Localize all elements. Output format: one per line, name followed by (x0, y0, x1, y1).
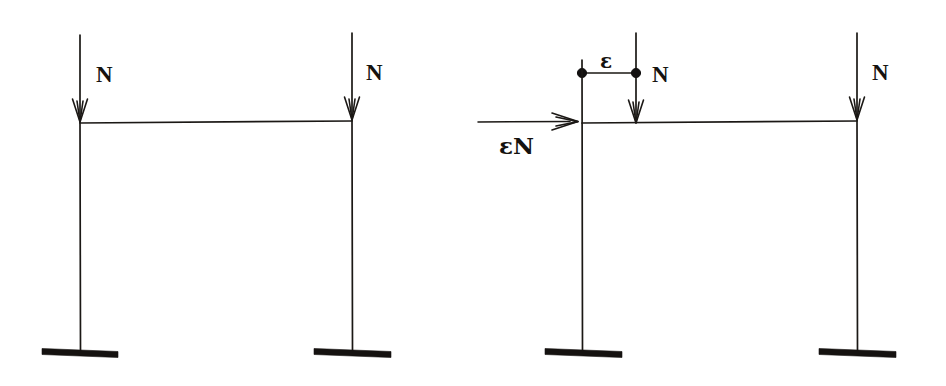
right-column (352, 119, 353, 351)
beam (582, 121, 857, 123)
left-base-plate (42, 349, 118, 358)
load-label-N: N (652, 62, 669, 87)
right-base-plate (819, 349, 896, 358)
equivalent-horizontal-force: εN (478, 113, 578, 159)
right-frame-right-load: N (850, 33, 890, 120)
diagram-canvas: N N εN (0, 0, 946, 386)
load-label-N: N (872, 60, 889, 85)
structural-diagram: N N εN (0, 0, 946, 386)
eccentricity-offset: ε (577, 49, 640, 78)
right-column (857, 119, 858, 351)
eccentricity-label: ε (600, 49, 612, 73)
force-shaft (478, 122, 570, 123)
left-base-plate (545, 349, 622, 358)
load-label-N: N (366, 60, 383, 85)
left-column (80, 121, 81, 351)
left-frame: N N (42, 33, 391, 358)
left-frame-left-load: N (73, 35, 114, 122)
load-application-node (631, 68, 640, 77)
beam (80, 121, 352, 123)
right-frame: εN N ε N (478, 33, 896, 358)
right-base-plate (314, 349, 391, 358)
left-column (582, 60, 583, 351)
load-label-N: N (96, 62, 113, 87)
force-label-epsilon-N: εN (499, 132, 534, 159)
left-frame-right-load: N (345, 33, 384, 120)
right-frame-eccentric-load: N (629, 33, 670, 123)
